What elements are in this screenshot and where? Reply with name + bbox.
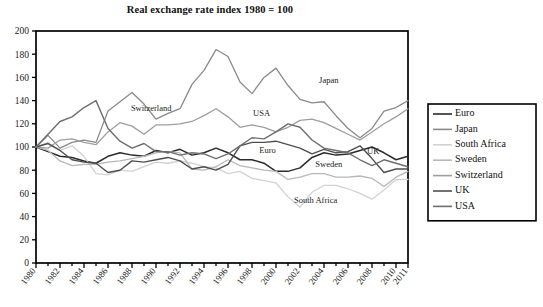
plot-frame <box>36 31 408 263</box>
x-tick-label: 1990 <box>139 266 158 287</box>
y-axis: 020406080100120140160180200 <box>15 26 36 268</box>
inline-label-switzerland: Switzerland <box>131 103 172 113</box>
x-tick-label: 2002 <box>283 266 302 286</box>
legend-label-uk: UK <box>455 184 470 195</box>
legend-label-usa: USA <box>455 200 476 211</box>
x-tick-label: 1988 <box>115 266 134 287</box>
x-tick-label: 1982 <box>43 266 62 286</box>
inline-label-euro: Euro <box>259 145 276 155</box>
y-tick-label: 40 <box>20 212 30 222</box>
series-lines <box>36 50 408 208</box>
inline-label-japan: Japan <box>319 75 339 85</box>
x-tick-label: 1996 <box>211 266 230 287</box>
inline-label-uk: UK <box>367 146 380 156</box>
y-tick-label: 160 <box>15 73 30 83</box>
x-tick-label: 2004 <box>307 266 326 287</box>
legend-label-sweden: Sweden <box>455 153 487 164</box>
y-tick-label: 60 <box>20 189 30 199</box>
chart-container: Real exchange rate index 1980 = 100 0204… <box>0 0 543 307</box>
x-tick-label: 2006 <box>331 266 350 287</box>
chart-legend: EuroJapanSouth AfricaSwedenSwitzerlandUK… <box>428 104 536 221</box>
series-line-usa <box>36 101 408 167</box>
x-tick-label: 2008 <box>355 266 374 287</box>
y-tick-label: 20 <box>20 235 30 245</box>
y-tick-label: 100 <box>15 142 30 152</box>
x-tick-label: 1998 <box>235 266 254 287</box>
x-axis: 1980198219841986198819901992199419961998… <box>19 263 410 286</box>
legend-label-south-africa: South Africa <box>455 138 506 149</box>
x-tick-label: 1992 <box>163 266 182 286</box>
x-tick-label: 1980 <box>19 266 38 287</box>
line-chart-svg: 020406080100120140160180200 198019821984… <box>0 0 543 307</box>
inline-label-sweden: Sweden <box>315 159 343 169</box>
inline-label-south-africa: South Africa <box>294 195 337 205</box>
x-tick-label: 2000 <box>259 266 278 287</box>
series-line-japan <box>36 50 408 149</box>
inline-annotations: SwitzerlandUSAJapanEuroSwedenUKSouth Afr… <box>131 75 380 204</box>
y-tick-label: 120 <box>15 119 30 129</box>
x-tick-label: 1994 <box>187 266 206 287</box>
legend-label-japan: Japan <box>455 123 478 134</box>
x-tick-label: 2011 <box>391 266 410 286</box>
y-tick-label: 80 <box>20 166 30 176</box>
y-tick-label: 140 <box>15 96 30 106</box>
x-tick-label: 1984 <box>67 266 86 287</box>
inline-label-usa: USA <box>253 108 271 118</box>
legend-label-switzerland: Switzerland <box>455 169 503 180</box>
y-tick-label: 200 <box>15 26 30 36</box>
legend-label-euro: Euro <box>455 107 474 118</box>
x-tick-label: 1986 <box>91 266 110 287</box>
y-tick-label: 180 <box>15 50 30 60</box>
series-line-switzerland <box>36 109 408 148</box>
